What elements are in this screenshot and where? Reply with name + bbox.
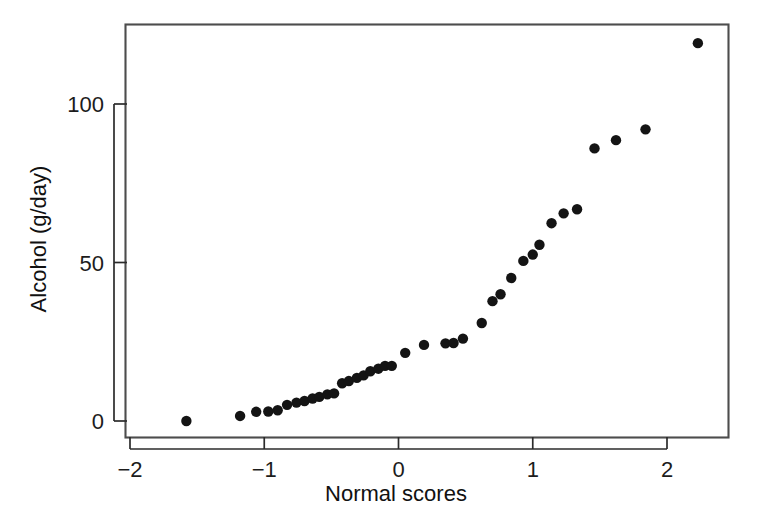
x-axis: −2−1012 (117, 437, 673, 482)
x-tick-label--1: −1 (252, 457, 277, 482)
qq-plot-figure: 050100 −2−1012 Normal scores Alcohol (g/… (0, 0, 766, 529)
x-tick-labels: −2−1012 (117, 457, 673, 482)
y-tick-labels: 050100 (67, 92, 104, 434)
data-point (448, 338, 458, 348)
y-tick-label-50: 50 (80, 251, 104, 276)
data-point (235, 411, 245, 421)
data-point (611, 135, 621, 145)
data-point (477, 318, 487, 328)
data-point (528, 249, 538, 259)
data-point (534, 240, 544, 250)
x-tick-label-0: 0 (392, 457, 404, 482)
data-point (506, 273, 516, 283)
data-point (546, 218, 556, 228)
y-axis: 050100 (67, 92, 127, 434)
data-point (263, 406, 273, 416)
data-point (572, 204, 582, 214)
data-point (400, 348, 410, 358)
scatter-plot-canvas: 050100 −2−1012 Normal scores Alcohol (g/… (0, 0, 766, 529)
data-point (518, 256, 528, 266)
data-point (251, 407, 261, 417)
x-tick-label-2: 2 (661, 457, 673, 482)
data-point-series (181, 38, 703, 426)
data-point (495, 289, 505, 299)
data-point (272, 405, 282, 415)
data-point (589, 143, 599, 153)
data-point (558, 208, 568, 218)
x-axis-title: Normal scores (325, 481, 467, 506)
data-point (387, 361, 397, 371)
x-tick-label--2: −2 (117, 457, 142, 482)
data-point (458, 333, 468, 343)
data-point (487, 296, 497, 306)
y-axis-title: Alcohol (g/day) (26, 166, 51, 313)
data-point (329, 388, 339, 398)
data-point (419, 340, 429, 350)
x-tick-marks (130, 437, 667, 449)
y-tick-label-100: 100 (67, 92, 104, 117)
data-point (181, 416, 191, 426)
y-tick-label-0: 0 (92, 409, 104, 434)
x-tick-label-1: 1 (527, 457, 539, 482)
data-point (693, 38, 703, 48)
plot-frame (126, 25, 729, 438)
data-point (640, 124, 650, 134)
data-point (282, 400, 292, 410)
